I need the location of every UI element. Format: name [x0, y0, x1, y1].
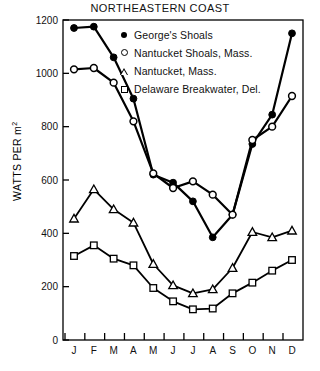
y-axis-tick-label: 600 [41, 175, 58, 186]
open-triangle-marker-icon [118, 64, 134, 78]
data-point-open-triangle [288, 226, 297, 234]
data-point-filled-circle [190, 198, 197, 205]
x-axis-month-label: N [269, 345, 276, 356]
x-axis-month-label: J [171, 345, 176, 356]
data-point-open-circle [150, 170, 157, 177]
data-point-open-circle [110, 79, 117, 86]
chart-figure: NORTHEASTERN COAST WATTS PER m2 02004006… [0, 0, 320, 371]
data-point-open-square [229, 290, 236, 297]
data-point-open-circle [209, 191, 216, 198]
data-point-open-square [209, 305, 216, 312]
legend-item: George's Shoals [118, 26, 298, 44]
series-line [74, 245, 292, 309]
open-circle-marker-icon [118, 46, 134, 60]
data-point-open-square [269, 267, 276, 274]
data-point-filled-circle [269, 111, 276, 118]
data-point-filled-circle [90, 23, 97, 30]
data-point-open-circle [130, 118, 137, 125]
legend-item-label: Nantucket, Mass. [134, 65, 217, 77]
x-axis-month-label: D [288, 345, 295, 356]
x-axis-month-label: M [149, 345, 157, 356]
legend-item-label: Delaware Breakwater, Del. [134, 83, 261, 95]
y-axis-tick-label: 0 [52, 335, 58, 346]
data-point-open-square [91, 242, 98, 249]
chart-legend: George's ShoalsNantucket Shoals, Mass.Na… [118, 26, 298, 98]
data-point-open-circle [170, 185, 177, 192]
data-point-filled-circle [209, 234, 216, 241]
data-point-open-square [150, 285, 157, 292]
legend-item-label: George's Shoals [134, 29, 213, 41]
data-point-open-square [289, 257, 296, 264]
y-axis-tick-label: 1200 [36, 15, 59, 26]
data-point-open-square [190, 306, 197, 313]
legend-item: Nantucket, Mass. [118, 62, 298, 80]
data-point-open-circle [229, 211, 236, 218]
x-axis-month-label: J [72, 345, 77, 356]
y-axis-tick-label: 800 [41, 121, 58, 132]
data-point-open-square [71, 253, 78, 260]
data-point-open-circle [269, 123, 276, 130]
data-point-filled-circle [71, 25, 78, 32]
data-point-open-square [170, 298, 177, 305]
x-axis-month-label: S [229, 345, 236, 356]
data-point-open-triangle [129, 218, 138, 226]
data-point-open-triangle [228, 264, 237, 272]
data-point-open-circle [249, 137, 256, 144]
data-point-open-square [249, 279, 256, 286]
filled-circle-marker-icon [118, 28, 134, 42]
data-point-open-triangle [248, 228, 257, 236]
y-axis-tick-label: 200 [41, 281, 58, 292]
legend-item-label: Nantucket Shoals, Mass. [134, 47, 252, 59]
data-point-filled-circle [110, 54, 117, 61]
data-point-open-square [130, 262, 137, 269]
data-point-open-circle [190, 178, 197, 185]
legend-item: Delaware Breakwater, Del. [118, 80, 298, 98]
y-axis-tick-label: 400 [41, 228, 58, 239]
x-axis-month-label: M [109, 345, 117, 356]
data-point-open-circle [90, 65, 97, 72]
open-square-marker-icon [118, 82, 134, 96]
y-axis-tick-label: 1000 [36, 68, 59, 79]
data-point-open-square [110, 255, 117, 262]
data-point-open-circle [71, 66, 78, 73]
x-axis-month-label: F [91, 345, 97, 356]
data-point-open-triangle [90, 185, 99, 193]
x-axis-month-label: A [130, 345, 137, 356]
legend-item: Nantucket Shoals, Mass. [118, 44, 298, 62]
data-point-open-triangle [149, 260, 158, 268]
x-axis-month-label: J [190, 345, 195, 356]
x-axis-month-label: A [209, 345, 216, 356]
x-axis-month-label: O [248, 345, 256, 356]
